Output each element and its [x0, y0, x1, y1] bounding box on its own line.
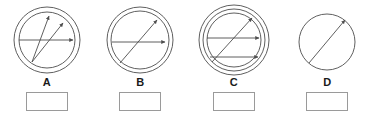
- figure-label-d: D: [323, 77, 331, 88]
- figure-diagram-d: [287, 0, 367, 80]
- figure-diagram-c: [194, 0, 274, 80]
- figure-label-b: B: [136, 77, 144, 88]
- figure-diagram-a: [7, 0, 87, 80]
- answer-box-d[interactable]: [306, 92, 348, 111]
- arrow-vector-2: [32, 23, 63, 62]
- answer-box-b[interactable]: [119, 92, 161, 111]
- figure-item-d: D: [282, 0, 372, 123]
- answer-box-a[interactable]: [26, 92, 68, 111]
- figure-item-a: A: [2, 0, 92, 123]
- figure-diagram-b: [100, 0, 180, 80]
- figure-item-c: C: [189, 0, 279, 123]
- figure-item-b: B: [95, 0, 185, 123]
- arrow-vector-1: [212, 18, 252, 62]
- arrow-vector-1: [309, 20, 345, 63]
- arrow-vector-1: [120, 20, 157, 63]
- circle-ring-1: [199, 5, 269, 75]
- figure-label-c: C: [230, 77, 238, 88]
- arrow-vector-1: [32, 16, 49, 62]
- figure-label-a: A: [43, 77, 51, 88]
- answer-box-c[interactable]: [213, 92, 255, 111]
- figures-row: ABCD: [0, 0, 374, 123]
